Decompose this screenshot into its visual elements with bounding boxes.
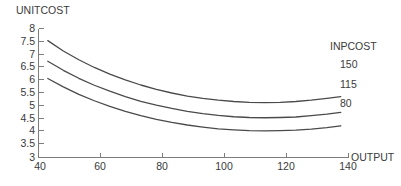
x-axis-tick-labels: 40 60 80 100 120 140 xyxy=(34,160,357,172)
y-tick-label: 7.5 xyxy=(20,35,35,47)
x-tick-label: 80 xyxy=(156,160,168,172)
chart-figure: UNITCOST 8 7.5 7 6.5 6 5.5 5 xyxy=(0,0,401,186)
y-tick-label: 3.5 xyxy=(20,137,35,149)
x-axis-ticks xyxy=(39,153,349,158)
curve-inpcost-80 xyxy=(48,79,341,131)
x-tick-label: 60 xyxy=(94,160,106,172)
y-tick-label: 8 xyxy=(29,22,35,34)
legend-title: INPCOST xyxy=(330,40,377,52)
axis-lines xyxy=(39,29,349,158)
y-tick-label: 7 xyxy=(29,48,35,60)
curve-inpcost-115 xyxy=(48,61,341,117)
y-tick-label: 5 xyxy=(29,99,35,111)
x-tick-label: 120 xyxy=(277,160,295,172)
curve-inpcost-150 xyxy=(48,41,341,103)
x-axis-title: OUTPUT xyxy=(351,151,395,163)
legend-item-115: 115 xyxy=(340,78,357,90)
legend-item-80: 80 xyxy=(340,97,352,109)
unit-cost-vs-output-chart: UNITCOST 8 7.5 7 6.5 6 5.5 5 xyxy=(0,0,401,186)
y-tick-label: 6.5 xyxy=(20,60,35,72)
data-curves xyxy=(48,41,341,131)
y-tick-label: 4.5 xyxy=(20,112,35,124)
x-tick-label: 100 xyxy=(215,160,233,172)
legend: INPCOST 150 115 80 xyxy=(330,40,377,109)
y-tick-label: 6 xyxy=(29,73,35,85)
y-axis-title: UNITCOST xyxy=(16,4,70,16)
y-axis-tick-labels: 8 7.5 7 6.5 6 5.5 5 4.5 4 3.5 3 xyxy=(20,22,35,163)
y-axis-ticks xyxy=(39,29,44,158)
y-tick-label: 4 xyxy=(29,124,35,136)
legend-item-150: 150 xyxy=(340,58,358,70)
y-tick-label: 5.5 xyxy=(20,86,35,98)
x-tick-label: 40 xyxy=(34,160,46,172)
